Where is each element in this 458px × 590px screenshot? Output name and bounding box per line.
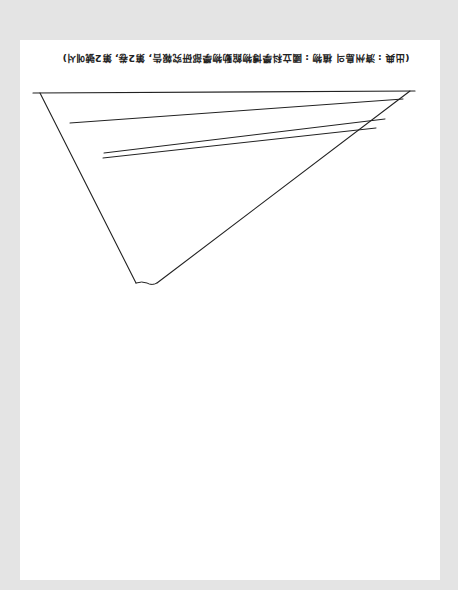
caption: (出典 : 濟州島의 植物 : 國立科學博物館動物學部研究報告, 第2卷, 第2… [63,53,410,64]
caption-text: (出典 : 濟州島의 植物 : 國立科學博物館動物學部研究報告, 第2卷, 第2… [63,53,410,64]
rotated-figure: (出典 : 濟州島의 植物 : 國立科學博物館動物學部研究報告, 第2卷, 第2… [0,0,458,590]
zone-line-1 [70,99,403,123]
cross-section-diagram [33,91,415,285]
spacer2 [84,128,367,158]
summit-crater [136,282,157,285]
svg-text:(出典 : 濟州島의 植物 : 國立科學博物館動物學部研究報: (出典 : 濟州島의 植物 : 國立科學博物館動物學部研究報告, 第2卷, 第2… [63,53,410,64]
zone-line-4 [103,128,376,158]
sea-level-line [33,91,415,93]
right-slope-line [157,91,410,283]
zone-line-2 [104,119,385,153]
